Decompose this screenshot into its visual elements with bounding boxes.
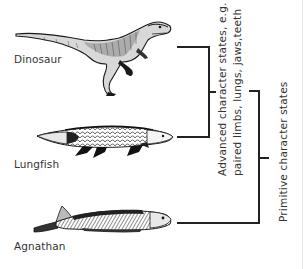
diagram-frame: Dinosaur Lungfish [0, 0, 303, 269]
node-label-primitive: Primitive character states [276, 82, 291, 222]
node-label-advanced: Advanced character states, e.g. paired l… [215, 2, 245, 176]
branch-agnathan [177, 222, 259, 224]
node-primitive-tick [259, 157, 269, 159]
node-label-advanced-line1: Advanced character states, e.g. [215, 2, 230, 176]
branch-dinosaur [177, 46, 209, 48]
taxon-label-dinosaur: Dinosaur [14, 53, 62, 65]
lungfish-illustration [35, 122, 175, 162]
branch-lungfish [177, 136, 209, 138]
agnathan-illustration [32, 204, 174, 238]
taxon-label-lungfish: Lungfish [14, 158, 59, 170]
taxon-label-agnathan: Agnathan [14, 240, 66, 252]
node-label-advanced-line2: paired limbs, lungs, jaws,teeth [230, 2, 245, 176]
node-label-primitive-line1: Primitive character states [276, 82, 291, 222]
